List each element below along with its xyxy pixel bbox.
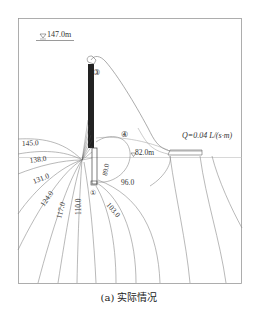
marker-4: ④ [121, 130, 128, 139]
drain-structure [92, 148, 97, 184]
discharge-label: Q=0.04 L/(s·m) [182, 131, 232, 140]
contour-label-117: 117.0 [54, 201, 67, 220]
contour-label-110: 110.0 [74, 198, 83, 215]
contour-label-145: 145.0 [22, 138, 40, 148]
marker-1: ① [90, 189, 96, 197]
contour-label-124: 124.0 [38, 189, 55, 208]
contour-label-131: 131.0 [31, 171, 50, 186]
contour-label-96: 96.0 [121, 178, 134, 187]
figure-caption: (a) 实际情况 [0, 289, 258, 304]
top-water-level: 147.0m [36, 30, 74, 41]
seepage-diagram: 147.0m 145.0 138.0 [0, 0, 258, 313]
top-water-level-label: 147.0m [47, 30, 72, 39]
contour-label-89: 89.0 [101, 162, 111, 176]
contour-label-103: 103.0 [104, 201, 122, 220]
contour-label-138: 138.0 [29, 154, 47, 165]
downstream-water-level: 82.0m [131, 148, 154, 157]
marker-3: ③ [93, 68, 100, 77]
wall-fan-top [87, 56, 96, 64]
contours-right [96, 156, 242, 283]
downstream-water-level-label: 82.0m [135, 148, 154, 157]
water-level-triangle-icon [40, 34, 46, 38]
